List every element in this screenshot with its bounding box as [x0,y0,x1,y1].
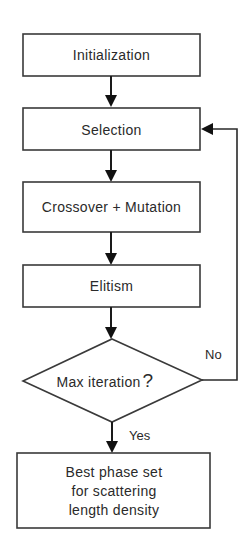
arrowhead-icon [106,441,118,453]
edge-decision-yes-to-result: Yes [106,422,151,453]
node-result-line-1: Best phase set [66,464,163,480]
edge-selection-to-crossover [105,150,117,182]
node-decision-label: Max iteration? [57,370,154,391]
decision-label-text: Max iteration [57,374,141,390]
node-elitism: Elitism [23,265,200,307]
node-result-line-3: length density [69,502,160,518]
edge-no-feedback-line [202,129,237,380]
node-elitism-label: Elitism [90,278,133,294]
node-selection: Selection [23,108,200,150]
edge-init-to-selection [105,76,117,107]
question-mark: ? [143,370,154,391]
node-initialization: Initialization [23,34,200,76]
node-selection-label: Selection [81,122,141,138]
node-crossover-mutation-label: Crossover + Mutation [42,199,181,215]
edge-elitism-to-decision [105,307,117,339]
arrowhead-icon [105,170,117,182]
node-crossover-mutation: Crossover + Mutation [23,182,200,232]
edge-decision-no-to-selection: No [201,123,237,380]
edge-label-no: No [205,347,222,362]
arrowhead-icon [105,327,117,339]
node-initialization-label: Initialization [73,47,150,63]
node-result: Best phase set for scattering length den… [17,453,210,528]
node-result-line-2: for scattering [71,483,156,499]
arrowhead-icon [105,253,117,265]
node-decision: Max iteration? [23,339,202,422]
arrowhead-icon [105,95,117,107]
edge-crossover-to-elitism [105,232,117,265]
flowchart: Initialization Selection Crossover + Mut… [0,0,250,552]
arrowhead-icon [201,123,213,135]
edge-label-yes: Yes [129,428,151,443]
